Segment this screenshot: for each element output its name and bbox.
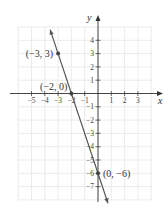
y-tick-label: 3 — [90, 49, 94, 58]
data-point — [56, 52, 60, 56]
x-tick-label: −4 — [41, 96, 49, 105]
y-tick-label: 1 — [90, 76, 94, 85]
x-tick-label: −3 — [54, 96, 62, 105]
x-tick-label: 2 — [123, 96, 127, 105]
y-tick-label: −6 — [86, 169, 94, 178]
y-tick-label: −1 — [86, 102, 94, 111]
x-tick-label: 1 — [109, 96, 113, 105]
line-arrow-icon — [50, 30, 54, 35]
point-label: (−2, 0) — [40, 81, 67, 93]
x-tick-label: 3 — [136, 96, 140, 105]
x-tick-label: −5 — [28, 96, 36, 105]
series-line — [50, 30, 108, 204]
coordinate-plane: −5−4−3−2−11234321−1−2−3−4−5−6−7 (−3, 3)(… — [0, 0, 168, 219]
point-label: (−3, 3) — [26, 48, 53, 60]
x-axis-label: x — [157, 95, 163, 106]
y-tick-label: −7 — [86, 182, 94, 191]
y-axis-label: y — [86, 12, 92, 23]
y-tick-label: −3 — [86, 129, 94, 138]
data-point — [96, 171, 100, 175]
y-tick-label: 4 — [90, 36, 94, 45]
plotted-line — [50, 30, 109, 204]
point-label: (0, −6) — [103, 168, 130, 180]
data-point — [69, 92, 73, 96]
line-arrow-icon — [104, 198, 108, 203]
y-tick-label: −2 — [86, 116, 94, 125]
y-tick-label: 2 — [90, 63, 94, 72]
y-axis-arrow-icon — [96, 15, 101, 21]
